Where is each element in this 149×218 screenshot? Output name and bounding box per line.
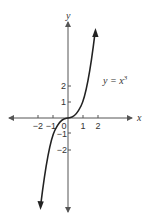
y-axis-label: y bbox=[65, 10, 71, 21]
function-label: y = x3 bbox=[102, 74, 128, 86]
function-label-base: y = x bbox=[102, 75, 124, 86]
function-label-exponent: 3 bbox=[123, 74, 128, 82]
cubic-function-graph: −2 −1 0 1 2 2 1 −1 −2 x y y = x3 bbox=[0, 0, 149, 218]
x-tick-label: 1 bbox=[80, 121, 85, 131]
y-tick-label: 2 bbox=[61, 81, 66, 91]
y-tick-label: −2 bbox=[57, 145, 67, 155]
x-axis-label: x bbox=[136, 112, 142, 123]
y-tick-label: 1 bbox=[61, 97, 66, 107]
curve-arrow-up-icon bbox=[92, 28, 98, 37]
curve-arrow-down-icon bbox=[38, 201, 44, 210]
x-tick-label: −2 bbox=[33, 121, 43, 131]
y-tick-label: −1 bbox=[57, 129, 67, 139]
x-tick-label: 2 bbox=[95, 121, 100, 131]
